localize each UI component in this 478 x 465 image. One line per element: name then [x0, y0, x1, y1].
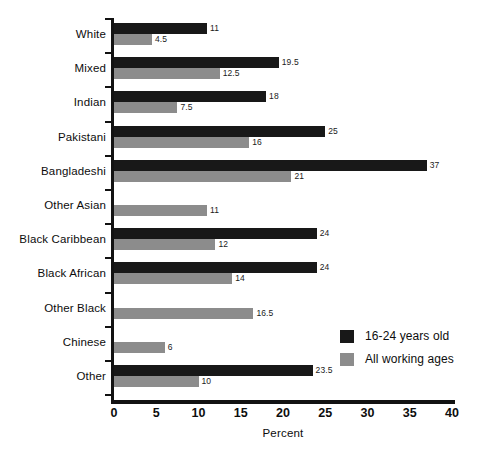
bar-other-black-all [114, 308, 253, 319]
category-label-pakistani: Pakistani [0, 131, 106, 143]
x-axis-title: Percent [114, 427, 452, 440]
y-axis-tick [105, 52, 112, 54]
bar-bangladeshi-young [114, 160, 427, 171]
bar-black-african-all [114, 273, 232, 284]
bar-value-label: 6 [168, 343, 173, 352]
x-tick-25: 25 [318, 406, 332, 420]
legend-label: All working ages [365, 351, 454, 367]
y-axis-tick [105, 257, 112, 259]
y-axis-tick [105, 189, 112, 191]
bar-pakistani-all [114, 137, 249, 148]
bar-value-label: 11 [210, 206, 219, 215]
category-label-bangladeshi: Bangladeshi [0, 165, 106, 177]
bar-other-asian-all [114, 205, 207, 216]
bar-white-young [114, 23, 207, 34]
bar-chinese-all [114, 342, 165, 353]
x-tick-35: 35 [403, 406, 417, 420]
legend-swatch-icon [340, 353, 354, 366]
bar-bangladeshi-all [114, 171, 291, 182]
x-tick-5: 5 [153, 406, 160, 420]
category-label-chinese: Chinese [0, 336, 106, 348]
bar-other-young [114, 365, 313, 376]
y-axis-tick [105, 86, 112, 88]
bar-value-label: 19.5 [282, 58, 299, 67]
y-axis-tick [105, 223, 112, 225]
bar-mixed-young [114, 57, 279, 68]
bar-chart: WhiteMixedIndianPakistaniBangladeshiOthe… [0, 0, 478, 465]
y-axis-tick [105, 360, 112, 362]
y-axis-tick [105, 292, 112, 294]
legend-swatch-icon [340, 330, 354, 343]
category-label-white: White [0, 28, 106, 40]
bar-value-label: 7.5 [180, 103, 192, 112]
x-axis-line [111, 400, 455, 404]
category-label-indian: Indian [0, 96, 106, 108]
category-label-other: Other [0, 370, 106, 382]
bar-white-all [114, 34, 152, 45]
bar-value-label: 4.5 [155, 35, 167, 44]
category-label-other-black: Other Black [0, 302, 106, 314]
category-label-black-african: Black African [0, 267, 106, 279]
bar-value-label: 21 [294, 172, 304, 181]
y-axis-tick [105, 326, 112, 328]
bar-value-label: 14 [235, 274, 245, 283]
bar-mixed-all [114, 68, 220, 79]
bar-value-label: 18 [269, 92, 279, 101]
bar-value-label: 12.5 [223, 69, 240, 78]
x-tick-30: 30 [361, 406, 375, 420]
bar-indian-all [114, 102, 177, 113]
bar-black-african-young [114, 262, 317, 273]
x-tick-20: 20 [276, 406, 290, 420]
category-label-mixed: Mixed [0, 62, 106, 74]
bar-value-label: 12 [218, 240, 228, 249]
category-label-black-caribbean: Black Caribbean [0, 233, 106, 245]
x-tick-0: 0 [111, 406, 118, 420]
bar-value-label: 37 [430, 161, 440, 170]
bar-indian-young [114, 91, 266, 102]
bar-value-label: 11 [210, 24, 219, 33]
bar-value-label: 16.5 [256, 309, 273, 318]
y-axis-tick [105, 121, 112, 123]
x-axis-tick-labels: 0510152025303540 [114, 406, 474, 422]
y-axis-tick [105, 394, 112, 396]
x-tick-10: 10 [192, 406, 206, 420]
bar-value-label: 10 [202, 377, 212, 386]
y-axis-tick [105, 18, 112, 20]
bar-black-caribbean-all [114, 239, 215, 250]
bar-value-label: 16 [252, 138, 262, 147]
bar-black-caribbean-young [114, 228, 317, 239]
bar-value-label: 24 [320, 263, 330, 272]
bar-value-label: 25 [328, 127, 338, 136]
legend-label: 16-24 years old [365, 328, 449, 344]
x-tick-40: 40 [445, 406, 459, 420]
y-axis-tick [105, 155, 112, 157]
x-tick-15: 15 [234, 406, 248, 420]
bar-value-label: 23.5 [316, 366, 333, 375]
bar-pakistani-young [114, 126, 325, 137]
bar-other-all [114, 376, 199, 387]
category-label-other-asian: Other Asian [0, 199, 106, 211]
bar-value-label: 24 [320, 229, 330, 238]
